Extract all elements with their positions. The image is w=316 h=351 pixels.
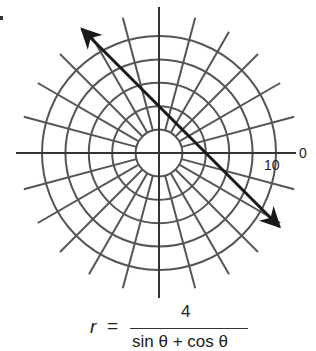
formula-numerator: 4 [181,302,190,322]
spoke-135 [60,54,143,137]
spoke-15 [182,117,295,147]
polar-axes [16,7,296,298]
angle-zero-label: 0 [299,145,307,161]
spoke-195 [24,159,137,189]
spoke-165 [24,117,137,147]
spoke-315 [176,170,259,253]
formula-lhs: r [90,316,96,338]
formula-equals: = [107,315,118,337]
spoke-225 [60,170,143,253]
spoke-45 [176,54,259,137]
polar-equation: r = 4 sin θ + cos θ [84,300,284,351]
spoke-255 [123,176,153,289]
fraction-bar [130,328,248,329]
polar-grid-plot [0,0,316,300]
spoke-75 [165,18,195,131]
spoke-285 [165,176,195,289]
radius-ten-label: 10 [264,157,280,173]
formula-denominator: sin θ + cos θ [132,332,228,351]
